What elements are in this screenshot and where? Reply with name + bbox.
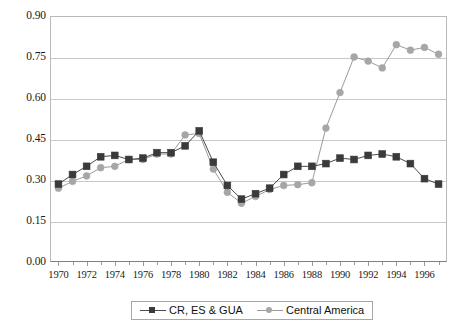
- data-point-square: [55, 181, 62, 188]
- data-point-circle: [407, 47, 414, 54]
- data-point-square: [69, 171, 76, 178]
- x-axis-tickmark: [213, 262, 214, 265]
- data-point-circle: [421, 44, 428, 51]
- data-point-circle: [351, 54, 358, 61]
- legend-label-cr-es-gua: CR, ES & GUA: [169, 305, 243, 316]
- data-point-circle: [69, 178, 76, 185]
- series-layer: [50, 16, 447, 262]
- data-point-square: [125, 156, 132, 163]
- data-point-circle: [280, 182, 287, 189]
- data-point-square: [337, 155, 344, 162]
- x-axis-tickmark: [298, 262, 299, 265]
- data-point-square: [393, 153, 400, 160]
- x-axis-tickmark: [424, 262, 425, 266]
- x-axis-tickmark: [157, 262, 158, 265]
- x-axis-tickmark: [129, 262, 130, 265]
- x-axis-tickmark: [410, 262, 411, 265]
- y-axis-tick-label: 0.90: [2, 10, 46, 22]
- data-point-square: [266, 185, 273, 192]
- x-axis-tickmark: [199, 262, 200, 266]
- x-axis-tickmark: [73, 262, 74, 265]
- data-point-square: [421, 175, 428, 182]
- data-point-circle: [97, 164, 104, 171]
- x-axis-tickmark: [58, 262, 59, 266]
- data-point-circle: [323, 125, 330, 132]
- data-point-square: [351, 156, 358, 163]
- legend-entry-central-america: Central America: [257, 305, 364, 316]
- data-point-square: [323, 160, 330, 167]
- y-axis-tick-label: 0.00: [2, 256, 46, 268]
- data-point-square: [196, 127, 203, 134]
- y-axis-tick-label: 0.75: [2, 51, 46, 63]
- x-axis-tickmark: [340, 262, 341, 266]
- data-point-square: [111, 152, 118, 159]
- x-axis-tickmark: [439, 262, 440, 265]
- x-axis-tickmark: [368, 262, 369, 266]
- y-axis-tick-label: 0.30: [2, 174, 46, 186]
- x-axis-tickmark: [284, 262, 285, 266]
- data-point-circle: [365, 58, 372, 65]
- x-axis-labels: 1970197219741976197819801982198419861988…: [0, 270, 462, 286]
- data-point-circle: [111, 163, 118, 170]
- x-axis-tickmark: [143, 262, 144, 266]
- x-axis-tickmarks: [50, 262, 447, 268]
- data-point-circle: [182, 132, 189, 139]
- data-point-circle: [379, 65, 386, 72]
- data-point-square: [379, 151, 386, 158]
- data-point-square: [168, 149, 175, 156]
- data-point-square: [280, 171, 287, 178]
- data-point-circle: [308, 179, 315, 186]
- data-point-square: [224, 182, 231, 189]
- legend-label-central-america: Central America: [286, 305, 364, 316]
- y-axis-tick-label: 0.60: [2, 92, 46, 104]
- x-axis-tickmark: [185, 262, 186, 265]
- chart-legend: CR, ES & GUA Central America: [131, 301, 373, 320]
- square-marker-icon: [140, 305, 166, 315]
- data-point-square: [182, 142, 189, 149]
- data-point-circle: [83, 173, 90, 180]
- x-axis-tickmark: [241, 262, 242, 265]
- x-axis-tickmark: [256, 262, 257, 266]
- data-point-square: [365, 152, 372, 159]
- data-point-circle: [337, 89, 344, 96]
- data-point-circle: [224, 189, 231, 196]
- x-axis-tickmark: [270, 262, 271, 265]
- x-axis-tickmark: [87, 262, 88, 266]
- x-axis-tickmark: [354, 262, 355, 265]
- data-point-circle: [435, 51, 442, 58]
- x-axis-tickmark: [312, 262, 313, 266]
- circle-marker-icon: [257, 305, 283, 315]
- data-point-square: [97, 153, 104, 160]
- data-point-square: [407, 160, 414, 167]
- x-axis-tickmark: [227, 262, 228, 266]
- data-point-square: [154, 149, 161, 156]
- x-axis-tickmark: [326, 262, 327, 265]
- x-axis-tickmark: [171, 262, 172, 266]
- data-point-square: [238, 196, 245, 203]
- data-point-circle: [294, 181, 301, 188]
- x-axis-tickmark: [382, 262, 383, 265]
- x-axis-tick-label: 1996: [404, 270, 444, 281]
- x-axis-tickmark: [101, 262, 102, 265]
- y-axis-tick-label: 0.15: [2, 215, 46, 227]
- data-point-square: [252, 190, 259, 197]
- series-central-america: [55, 41, 442, 206]
- data-point-square: [210, 159, 217, 166]
- data-point-square: [435, 181, 442, 188]
- legend-entry-cr-es-gua: CR, ES & GUA: [140, 305, 243, 316]
- data-point-square: [140, 155, 147, 162]
- data-point-square: [308, 163, 315, 170]
- y-axis-tick-label: 0.45: [2, 133, 46, 145]
- data-point-square: [83, 163, 90, 170]
- chart-figure: 0.900.750.600.450.300.150.00 19701972197…: [0, 0, 462, 333]
- x-axis-tickmark: [396, 262, 397, 266]
- data-point-square: [294, 163, 301, 170]
- data-point-circle: [393, 41, 400, 48]
- x-axis-tickmark: [115, 262, 116, 266]
